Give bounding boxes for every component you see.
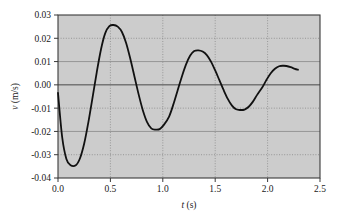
x-tick-label: 2.0 — [262, 184, 274, 194]
x-tick-label: 1.0 — [157, 184, 169, 194]
x-axis-title: t (s) — [181, 200, 196, 211]
y-tick-label: 0.01 — [34, 57, 51, 67]
y-tick-label: -0.02 — [31, 127, 51, 137]
y-tick-label: 0.03 — [34, 10, 51, 20]
velocity-time-chart: 0.00.51.01.52.02.5 0.030.020.010.00-0.01… — [0, 0, 344, 214]
chart-container: 0.00.51.01.52.02.5 0.030.020.010.00-0.01… — [0, 0, 344, 214]
y-tick-label: 0.00 — [34, 80, 51, 90]
y-tick-label: -0.03 — [31, 150, 51, 160]
x-tick-label: 0.0 — [52, 184, 64, 194]
x-tick-label: 1.5 — [209, 184, 221, 194]
y-tick-label: -0.04 — [31, 173, 51, 183]
y-tick-label: 0.02 — [34, 34, 51, 44]
y-tick-label: -0.01 — [31, 104, 51, 114]
y-axis-title: v (m/s) — [10, 83, 21, 110]
x-tick-label: 0.5 — [104, 184, 116, 194]
x-tick-label: 2.5 — [314, 184, 326, 194]
plot-area-background — [58, 15, 320, 178]
